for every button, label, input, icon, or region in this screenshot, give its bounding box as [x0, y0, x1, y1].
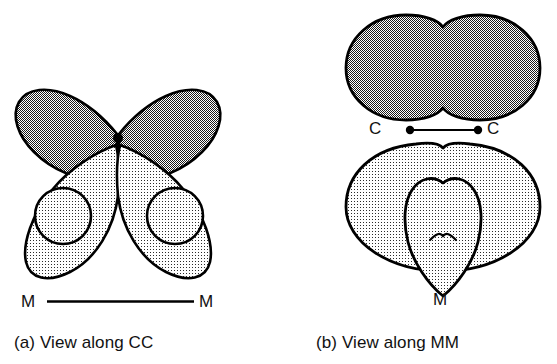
cc-axis-dot-left [406, 126, 414, 134]
orbital-lobe-diagram [0, 0, 557, 364]
panel-a-caption: (a) View along CC [14, 333, 153, 353]
cc-axis-dot-right [474, 126, 482, 134]
origin-dot [113, 133, 123, 143]
lower-left-light-circle [35, 188, 91, 244]
panel-b-caption: (b) View along MM [316, 333, 459, 353]
panel-b-axis-label-bottom: M [433, 290, 447, 310]
lower-right-light-circle [147, 188, 203, 244]
panel-a-axis-label-left: M [21, 292, 35, 312]
panel-a-axis-label-right: M [199, 292, 213, 312]
upper-dark-bilobe [346, 15, 540, 120]
panel-b-axis-label-right: C [487, 119, 499, 139]
panel-b [346, 15, 540, 296]
panel-b-axis-label-left: C [369, 119, 381, 139]
